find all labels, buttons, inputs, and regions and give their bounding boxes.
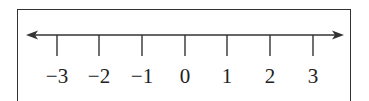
tick-label: −1 [131,64,153,88]
tick-label: −3 [46,64,68,88]
tick-label: 0 [180,64,191,88]
tick-label: 1 [222,64,233,88]
number-line: −3−2−10123 [0,0,369,101]
tick-label: 3 [308,64,319,88]
tick-label: 2 [265,64,276,88]
tick-label: −2 [88,64,110,88]
